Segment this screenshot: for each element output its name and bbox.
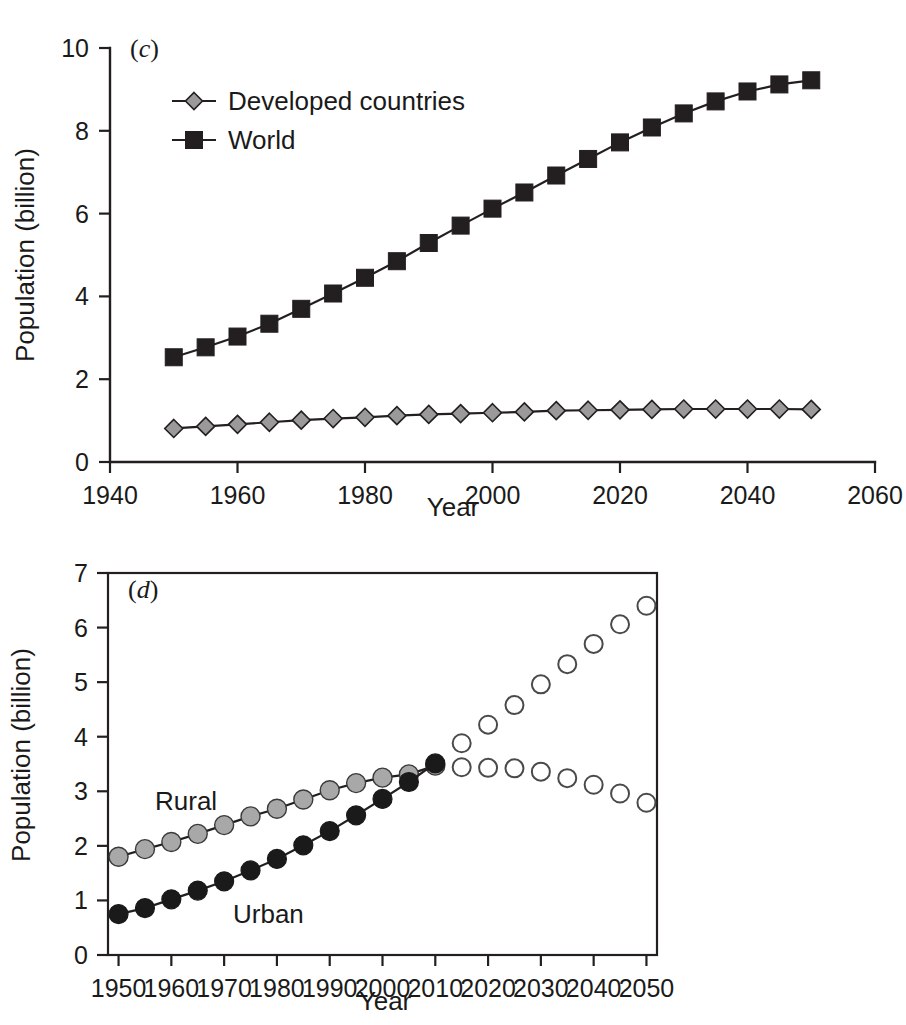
data-point-marker [260,413,278,431]
y-tick-label: 2 [74,832,88,860]
data-point-marker-projected [585,776,603,794]
data-point-marker-projected [532,763,550,781]
panel-c-y-tick-labels: 0246810 [61,34,89,476]
legend-entry-developed-countries: Developed countries [172,86,465,116]
data-point-marker [612,134,629,151]
x-tick-label: 2040 [720,481,776,509]
data-point-marker [165,419,183,437]
data-point-marker-observed [109,847,128,866]
data-point-marker [356,408,374,426]
panel-c-y-ticks [99,48,110,462]
data-point-marker-observed [267,799,286,818]
data-point-marker [643,119,660,136]
data-point-marker [803,72,820,89]
data-point-marker [675,105,692,122]
data-point-marker [771,76,788,93]
y-tick-label: 7 [74,559,88,587]
x-tick-label: 2020 [460,974,516,1002]
data-point-marker [516,184,533,201]
data-point-marker-projected [453,734,471,752]
data-point-marker-observed [215,872,234,891]
data-point-marker-observed [241,861,260,880]
data-point-marker [388,253,405,270]
y-tick-label: 3 [74,777,88,805]
data-point-marker [515,403,533,421]
panel-d-y-ticks [97,573,108,955]
data-point-marker-observed [188,881,207,900]
annotation-urban: Urban [233,899,304,929]
panel-d-label: (d) [128,575,158,604]
data-point-marker-projected [637,597,655,615]
data-point-marker-projected [611,615,629,633]
data-point-marker [739,83,756,100]
data-point-marker-observed [162,890,181,909]
x-tick-label: 1960 [210,481,266,509]
data-point-marker [324,410,342,428]
data-point-marker-observed [215,816,234,835]
x-tick-label: 1980 [249,974,305,1002]
data-point-marker-projected [479,759,497,777]
y-tick-label: 2 [75,365,89,393]
y-tick-label: 0 [75,448,89,476]
panel-c-x-axis-title: Year [427,492,480,522]
data-point-marker [229,328,246,345]
data-point-marker [197,417,215,435]
data-point-marker-observed [294,836,313,855]
x-tick-label: 2020 [592,481,648,509]
data-point-marker-observed [267,849,286,868]
panel-c-x-ticks [110,462,875,473]
data-point-marker-observed [135,899,154,918]
data-point-marker [229,415,247,433]
data-point-marker-projected [505,759,523,777]
y-tick-label: 6 [74,614,88,642]
annotation-rural: Rural [155,786,217,816]
data-point-marker-observed [320,822,339,841]
x-tick-label: 2010 [407,974,463,1002]
panel-d-series-group [109,597,655,924]
panel-c: 1940196019802000202020402060 0246810 Yea… [0,0,906,540]
data-point-marker [484,200,501,217]
data-point-marker-observed [162,833,181,852]
data-point-marker [452,217,469,234]
data-point-marker-observed [373,768,392,787]
data-point-marker-projected [558,769,576,787]
data-point-marker [388,407,406,425]
panel-d-frame [108,573,657,955]
data-point-marker-projected [611,784,629,802]
data-point-marker-projected [637,794,655,812]
x-tick-label: 2060 [847,481,903,509]
data-point-marker [261,315,278,332]
x-tick-label: 2050 [619,974,675,1002]
y-tick-label: 1 [74,886,88,914]
x-tick-label: 1990 [302,974,358,1002]
y-tick-label: 4 [75,282,89,310]
panel-d: 1950196019701980199020002010202020302040… [0,540,906,1025]
panel-d-y-tick-labels: 01234567 [74,559,88,969]
data-point-marker [675,400,693,418]
x-tick-label: 2030 [513,974,569,1002]
panel-d-x-ticks [119,955,647,966]
x-tick-label: 1950 [91,974,147,1002]
panel-d-y-axis-title: Population (billion) [6,648,36,862]
data-point-marker [420,234,437,251]
data-point-marker [293,300,310,317]
data-point-marker-projected [453,758,471,776]
data-point-marker-projected [532,675,550,693]
data-point-marker [802,400,820,418]
data-point-marker [611,401,629,419]
data-point-marker [547,402,565,420]
y-tick-label: 5 [74,668,88,696]
panel-c-legend: Developed countries World [172,86,465,155]
y-tick-label: 8 [75,117,89,145]
data-point-marker-observed [241,807,260,826]
data-point-marker [357,269,374,286]
series-urban [109,597,655,924]
legend-marker-diamond-icon [186,93,203,110]
data-point-marker [420,405,438,423]
data-point-marker-projected [505,696,523,714]
data-point-marker [707,400,725,418]
data-point-marker-observed [188,824,207,843]
series-developed-countries [165,400,821,437]
data-point-marker [165,349,182,366]
data-point-marker-observed [399,773,418,792]
